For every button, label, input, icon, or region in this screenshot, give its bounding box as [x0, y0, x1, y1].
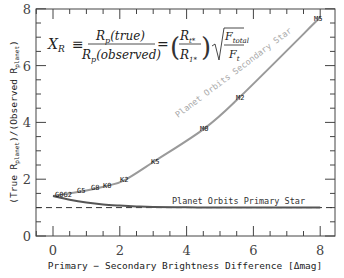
- x-tick-label: 2: [116, 243, 124, 258]
- chart: 0246802468 G0G2G5G8K0K2K5M0M2M5 Planet O…: [0, 0, 344, 278]
- svg-text:XR: XR: [47, 36, 65, 54]
- x-axis-label: Primary − Secondary Brightness Differenc…: [48, 260, 323, 271]
- svg-text:R1*: R1*: [179, 48, 198, 64]
- svg-text:): ): [201, 32, 211, 62]
- x-tick-label: 6: [249, 243, 257, 258]
- y-axis-label: (True Rplanet)/(Observed Rplanet): [8, 40, 21, 204]
- x-tick-label: 0: [49, 243, 57, 258]
- y-tick-label: 4: [23, 115, 31, 130]
- svg-text:Ft: Ft: [228, 48, 240, 63]
- y-tick-label: 0: [23, 229, 31, 244]
- x-tick-label: 8: [316, 243, 324, 258]
- svg-text:Rp(observed): Rp(observed): [81, 48, 161, 64]
- spectral-type-label: K5: [151, 158, 159, 166]
- spectral-type-label: G8: [91, 184, 99, 192]
- svg-text:Rt*: Rt*: [179, 29, 196, 45]
- spectral-type-label: K0: [103, 182, 111, 190]
- equation: XR ≡ Rp(true) Rp(observed) = ( Rt* R1* )…: [47, 28, 249, 64]
- y-tick-label: 2: [23, 172, 31, 187]
- svg-text:=: =: [157, 36, 169, 52]
- primary-curve-label: Planet Orbits Primary Star: [172, 196, 305, 206]
- spectral-type-label: K2: [120, 176, 128, 184]
- spectral-type-label: M2: [236, 94, 244, 102]
- svg-text:(: (: [170, 32, 180, 62]
- y-tick-label: 8: [23, 2, 31, 17]
- svg-text:Ftotal: Ftotal: [224, 30, 249, 45]
- x-tick-label: 4: [182, 243, 190, 258]
- spectral-type-label: G5: [77, 187, 85, 195]
- spectral-type-label: G0G2: [55, 191, 72, 199]
- y-tick-label: 6: [23, 59, 31, 74]
- svg-text:Rp(true): Rp(true): [95, 29, 145, 45]
- spectral-type-label: M0: [200, 125, 208, 133]
- spectral-type-label: M5: [314, 15, 322, 23]
